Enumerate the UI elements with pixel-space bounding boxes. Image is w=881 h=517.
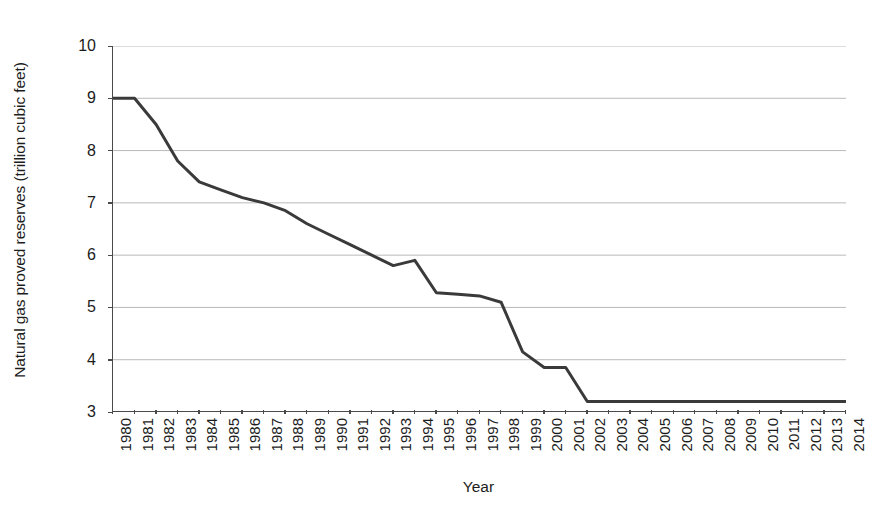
x-axis-tick: 1995 xyxy=(435,414,436,472)
x-axis-tick-mark xyxy=(629,410,630,414)
x-axis-tick: 2011 xyxy=(780,414,781,472)
x-axis-tick-label: 2013 xyxy=(829,418,844,451)
x-axis-tick-label: 2010 xyxy=(765,418,780,451)
x-axis-tick: 1990 xyxy=(328,414,329,472)
x-axis-tick-label: 2002 xyxy=(592,418,607,451)
x-axis-tick-label: 1984 xyxy=(204,418,219,451)
y-axis-tick-label: 9 xyxy=(87,89,96,107)
y-axis-tick-label: 7 xyxy=(87,194,96,212)
x-axis-tick-label: 1980 xyxy=(118,418,133,451)
x-axis-tick: 1996 xyxy=(457,414,458,472)
x-axis-tick-label: 1992 xyxy=(377,418,392,451)
x-axis-tick-label: 1982 xyxy=(161,418,176,451)
line-chart: Natural gas proved reserves (trillion cu… xyxy=(0,0,881,517)
plot-svg xyxy=(113,46,846,412)
x-axis-tick-mark xyxy=(780,410,781,414)
y-axis-tick-label: 3 xyxy=(87,403,96,421)
y-axis-tick-mark xyxy=(108,202,113,203)
x-axis-tick: 1989 xyxy=(306,414,307,472)
x-axis-tick-mark xyxy=(479,410,480,414)
x-axis-tick-mark xyxy=(845,410,846,414)
y-axis-tick-mark xyxy=(108,359,113,360)
plot-area xyxy=(112,46,845,412)
x-axis-tick-label: 2001 xyxy=(571,418,586,451)
x-axis-tick-label: 1995 xyxy=(441,418,456,451)
x-axis-tick: 1986 xyxy=(241,414,242,472)
x-axis-tick: 1997 xyxy=(479,414,480,472)
x-axis-tick-label: 2014 xyxy=(851,418,866,451)
x-axis-tick: 2003 xyxy=(608,414,609,472)
y-axis-title-text: Natural gas proved reserves (trillion cu… xyxy=(11,62,29,378)
y-axis-tick-mark xyxy=(108,255,113,256)
x-axis-tick-mark xyxy=(112,410,113,414)
x-axis-tick-mark xyxy=(737,410,738,414)
x-axis-tick-mark xyxy=(586,410,587,414)
x-axis-tick: 2002 xyxy=(586,414,587,472)
x-axis-tick-mark xyxy=(651,410,652,414)
x-axis-tick-mark xyxy=(759,410,760,414)
x-axis-tick: 1984 xyxy=(198,414,199,472)
y-axis-tick-mark xyxy=(108,307,113,308)
x-axis-tick-mark xyxy=(371,410,372,414)
y-axis-tick-label: 8 xyxy=(87,142,96,160)
x-axis-tick-mark xyxy=(608,410,609,414)
x-axis-tick: 2006 xyxy=(673,414,674,472)
x-axis-tick-label: 1994 xyxy=(420,418,435,451)
x-axis-tick-label: 1988 xyxy=(290,418,305,451)
x-axis-tick-mark xyxy=(241,410,242,414)
x-axis-tick-mark xyxy=(220,410,221,414)
x-axis-tick: 2000 xyxy=(543,414,544,472)
data-line-natural-gas-proved-reserves xyxy=(113,98,846,401)
y-axis-title: Natural gas proved reserves (trillion cu… xyxy=(0,0,40,440)
x-axis-tick-mark xyxy=(500,410,501,414)
y-axis-tick-labels: 109876543 xyxy=(58,46,104,412)
x-axis-tick-label: 2012 xyxy=(808,418,823,451)
x-axis-tick-mark xyxy=(177,410,178,414)
x-axis-tick-label: 1997 xyxy=(485,418,500,451)
x-axis-tick-mark xyxy=(198,410,199,414)
x-axis-tick-mark xyxy=(349,410,350,414)
x-axis-tick: 1992 xyxy=(371,414,372,472)
x-axis-tick: 2013 xyxy=(823,414,824,472)
y-axis-tick-label: 4 xyxy=(87,351,96,369)
x-axis-tick-label: 2003 xyxy=(614,418,629,451)
x-axis-tick-label: 2007 xyxy=(700,418,715,451)
x-axis-tick: 1988 xyxy=(284,414,285,472)
x-axis-tick-mark xyxy=(155,410,156,414)
x-axis-tick-label: 1999 xyxy=(528,418,543,451)
x-axis-tick-label: 1987 xyxy=(269,418,284,451)
x-axis-tick: 1999 xyxy=(522,414,523,472)
x-axis-tick: 2008 xyxy=(716,414,717,472)
y-axis-tick-mark xyxy=(108,46,113,47)
x-axis-tick: 1981 xyxy=(134,414,135,472)
x-axis-tick-label: 1985 xyxy=(226,418,241,451)
x-axis-tick-mark xyxy=(284,410,285,414)
x-axis-tick: 1993 xyxy=(392,414,393,472)
x-axis-tick-label: 2011 xyxy=(786,418,801,450)
x-axis-tick: 2012 xyxy=(802,414,803,472)
x-axis-tick-label: 1986 xyxy=(247,418,262,451)
x-axis-tick: 1998 xyxy=(500,414,501,472)
x-axis-tick-mark xyxy=(694,410,695,414)
y-axis-tick-mark xyxy=(108,98,113,99)
x-axis-tick-label: 1993 xyxy=(398,418,413,451)
x-axis-tick-mark xyxy=(543,410,544,414)
x-axis-tick: 1985 xyxy=(220,414,221,472)
x-axis-tick-mark xyxy=(565,410,566,414)
x-axis-tick-mark xyxy=(802,410,803,414)
x-axis-tick-mark xyxy=(823,410,824,414)
x-axis-tick-labels: 1980198119821983198419851986198719881989… xyxy=(112,414,845,474)
x-axis-title: Year xyxy=(112,478,845,496)
x-axis-tick: 2010 xyxy=(759,414,760,472)
x-axis-tick: 1980 xyxy=(112,414,113,472)
x-axis-tick-label: 1990 xyxy=(334,418,349,451)
x-axis-tick-mark xyxy=(328,410,329,414)
x-axis-tick-label: 2004 xyxy=(635,418,650,451)
x-axis-tick-label: 1996 xyxy=(463,418,478,451)
y-axis-tick-label: 6 xyxy=(87,246,96,264)
x-axis-tick: 1991 xyxy=(349,414,350,472)
x-axis-tick-label: 2006 xyxy=(679,418,694,451)
x-axis-tick: 2005 xyxy=(651,414,652,472)
x-axis-tick: 1987 xyxy=(263,414,264,472)
x-axis-tick-label: 1989 xyxy=(312,418,327,451)
